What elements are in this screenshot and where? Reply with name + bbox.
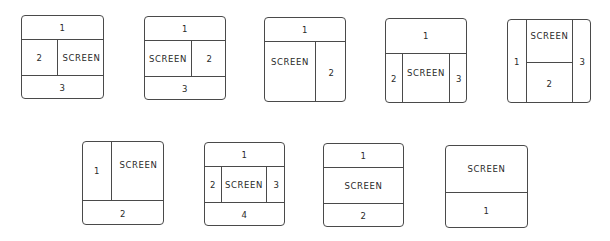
region-top: 1 xyxy=(324,144,403,168)
region-center-bottom: 2 xyxy=(527,63,573,103)
region-bottom: 2 xyxy=(324,204,403,227)
layout-9: SCREEN 1 xyxy=(445,145,528,228)
region-left: 2 xyxy=(22,40,58,76)
region-bottom: 3 xyxy=(145,77,225,100)
region-right: 3 xyxy=(267,167,285,203)
region-right: 2 xyxy=(316,42,346,102)
region-top: 1 xyxy=(145,17,225,41)
region-screen: SCREEN xyxy=(324,168,403,204)
layout-8: 1 SCREEN 2 xyxy=(323,143,404,227)
region-left: 1 xyxy=(83,142,112,201)
region-left: 2 xyxy=(205,167,222,203)
layout-1: 1 2 SCREEN 3 xyxy=(21,15,104,99)
region-screen: SCREEN xyxy=(145,41,192,77)
layout-6: 1 SCREEN 2 xyxy=(82,141,164,225)
layout-5: 1 SCREEN 2 3 xyxy=(507,19,591,103)
region-top: 1 xyxy=(265,18,345,42)
region-top: 1 xyxy=(386,19,466,54)
region-top: 1 xyxy=(22,16,103,40)
region-right: 3 xyxy=(573,20,591,103)
region-left: 1 xyxy=(508,20,527,103)
region-bottom: 3 xyxy=(22,76,103,99)
region-bottom: 2 xyxy=(83,201,163,225)
region-screen: SCREEN xyxy=(403,54,450,103)
region-screen: SCREEN xyxy=(58,40,104,76)
region-screen: SCREEN xyxy=(527,20,573,63)
region-screen: SCREEN xyxy=(446,146,527,193)
layout-7: 1 2 SCREEN 3 4 xyxy=(204,142,285,226)
region-right: 2 xyxy=(192,41,226,77)
region-left: 2 xyxy=(386,54,403,103)
region-right: 3 xyxy=(450,54,467,103)
region-screen: SCREEN xyxy=(265,42,316,102)
layout-4: 1 2 SCREEN 3 xyxy=(385,18,467,103)
region-bottom: 1 xyxy=(446,193,527,228)
layout-2: 1 SCREEN 2 3 xyxy=(144,16,226,100)
region-top: 1 xyxy=(205,143,284,167)
region-bottom: 4 xyxy=(205,203,284,226)
region-screen: SCREEN xyxy=(112,142,164,201)
layout-3: 1 SCREEN 2 xyxy=(264,17,346,102)
region-screen: SCREEN xyxy=(222,167,267,203)
